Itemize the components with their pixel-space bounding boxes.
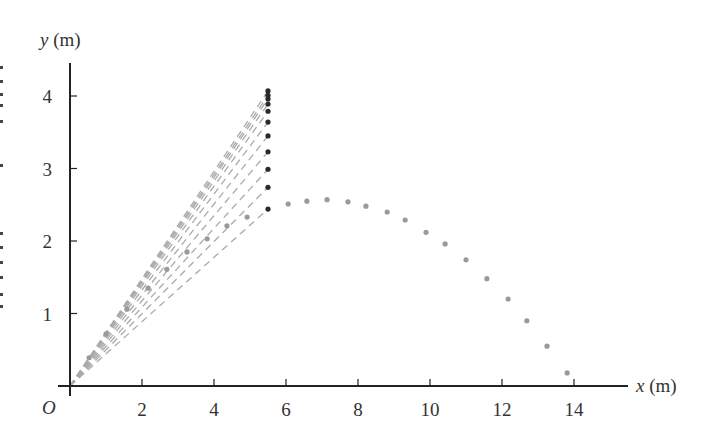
margin-text-fragment	[0, 276, 3, 279]
margin-text-fragment	[0, 80, 3, 83]
margin-text-fragment	[0, 261, 3, 264]
trajectory-point	[286, 201, 291, 206]
trajectory-point	[506, 296, 511, 301]
trajectory-point	[245, 214, 250, 219]
margin-text-fragment	[0, 66, 3, 69]
trajectory-point	[403, 217, 408, 222]
y-ticks: 1234	[43, 86, 78, 325]
y-axis-label: y (m)	[38, 29, 81, 51]
trajectory-point	[304, 199, 309, 204]
projected-point	[265, 207, 270, 212]
x-tick-label: 10	[421, 399, 440, 420]
trajectory-point	[324, 197, 329, 202]
trajectory-point	[385, 209, 390, 214]
trajectory-point	[443, 241, 448, 246]
trajectory-point	[124, 307, 129, 312]
sight-line	[70, 111, 268, 386]
x-tick-label: 8	[353, 399, 363, 420]
y-tick-label: 2	[43, 231, 53, 252]
projected-point	[265, 109, 270, 114]
projected-point	[265, 185, 270, 190]
margin-text-fragment	[0, 164, 3, 167]
trajectory-point	[544, 344, 549, 349]
margin-text-fragment	[0, 93, 3, 96]
margin-text-fragment	[0, 104, 3, 107]
margin-text-fragment	[0, 305, 3, 308]
trajectory-point	[423, 230, 428, 235]
data-points	[86, 88, 569, 375]
sight-line	[70, 187, 268, 386]
margin-text-fragment	[0, 232, 3, 235]
sight-line	[70, 136, 268, 386]
sight-line	[70, 122, 268, 386]
projected-point	[265, 133, 270, 138]
origin-label: O	[42, 397, 56, 418]
x-tick-label: 4	[209, 399, 219, 420]
trajectory-point	[164, 267, 169, 272]
projected-point	[265, 120, 270, 125]
margin-text-fragment	[0, 246, 3, 249]
trajectory-point	[524, 318, 529, 323]
x-tick-label: 2	[137, 399, 147, 420]
trajectory-point	[345, 199, 350, 204]
trajectory-point	[565, 370, 570, 375]
trajectory-point	[103, 331, 108, 336]
projected-point	[265, 167, 270, 172]
trajectory-point	[205, 236, 210, 241]
dashed-sight-lines	[70, 91, 268, 386]
projected-point	[265, 96, 270, 101]
y-tick-label: 1	[43, 304, 53, 325]
y-tick-label: 3	[43, 159, 53, 180]
x-tick-label: 12	[493, 399, 512, 420]
trajectory-point	[184, 249, 189, 254]
trajectory-point	[463, 257, 468, 262]
projected-point	[265, 149, 270, 154]
margin-text-fragment	[0, 293, 3, 296]
trajectory-point	[146, 286, 151, 291]
trajectory-point	[86, 355, 91, 360]
sight-line	[70, 209, 268, 386]
x-tick-label: 6	[281, 399, 291, 420]
trajectory-point	[484, 276, 489, 281]
axes: 2468101214 1234	[43, 63, 629, 420]
trajectory-point	[224, 223, 229, 228]
y-tick-label: 4	[43, 86, 53, 107]
trajectory-point	[363, 204, 368, 209]
x-tick-label: 14	[565, 399, 585, 420]
trajectory-chart: 2468101214 1234 x (m) y (m) O	[0, 0, 704, 431]
margin-text-fragment	[0, 120, 3, 123]
projected-point	[265, 101, 270, 106]
sight-line	[70, 169, 268, 386]
x-axis-label: x (m)	[635, 375, 677, 397]
